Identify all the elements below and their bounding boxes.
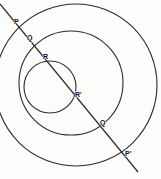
point-label-r: R — [43, 53, 48, 60]
transversal-line — [0, 4, 138, 172]
point-label-r-prime: R' — [75, 91, 82, 98]
point-label-p-prime: P' — [125, 150, 131, 157]
point-label-q: Q — [27, 34, 32, 41]
point-label-p: P — [14, 18, 19, 25]
point-label-q-prime: Q' — [100, 119, 107, 126]
geometry-figure: P Q R R' Q' P' — [0, 0, 161, 179]
figure-canvas — [0, 0, 161, 179]
